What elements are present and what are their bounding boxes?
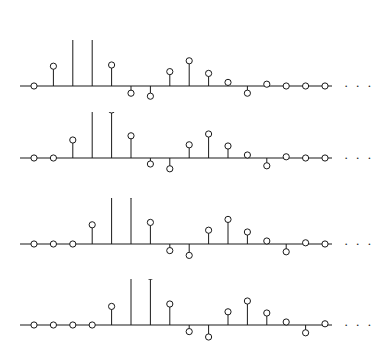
stem-marker [31, 241, 37, 247]
stem-marker [89, 222, 95, 228]
panel-4-canvas [0, 279, 375, 361]
stem-marker [50, 63, 56, 69]
stem-marker [322, 83, 328, 89]
panel-2 [0, 112, 375, 204]
stem-marker [283, 249, 289, 255]
stem-marker [283, 154, 289, 160]
stem-marker [109, 303, 115, 309]
stem-marker [283, 319, 289, 325]
stem-marker [186, 329, 192, 335]
stem-marker [50, 155, 56, 161]
stem-marker [50, 241, 56, 247]
stem-marker [147, 93, 153, 99]
continuation-ellipsis: · · · [344, 237, 374, 250]
stem-marker [303, 155, 309, 161]
stem-marker [303, 240, 309, 246]
continuation-ellipsis: · · · [344, 79, 374, 92]
stem-plot-figure: · · ·· · ·· · ·· · · [0, 0, 375, 361]
stem-marker [31, 155, 37, 161]
stem-series [31, 40, 328, 99]
stem-marker [109, 112, 115, 113]
stem-series [31, 112, 328, 172]
stem-series [31, 198, 328, 259]
stem-marker [109, 62, 115, 68]
stem-marker [244, 152, 250, 158]
continuation-ellipsis: · · · [344, 151, 374, 164]
stem-marker [264, 310, 270, 316]
continuation-ellipsis: · · · [344, 318, 374, 331]
panel-2-canvas [0, 112, 375, 204]
stem-marker [186, 252, 192, 258]
stem-marker [147, 161, 153, 167]
stem-marker [128, 90, 134, 96]
stem-marker [167, 166, 173, 172]
stem-marker [264, 163, 270, 169]
stem-marker [244, 90, 250, 96]
stem-marker [206, 227, 212, 233]
stem-marker [167, 301, 173, 307]
panel-3 [0, 198, 375, 290]
stem-marker [322, 155, 328, 161]
stem-marker [264, 238, 270, 244]
stem-marker [244, 229, 250, 235]
stem-marker [147, 219, 153, 225]
panel-3-canvas [0, 198, 375, 290]
stem-marker [283, 83, 289, 89]
panel-4 [0, 279, 375, 361]
stem-marker [167, 248, 173, 254]
stem-marker [70, 137, 76, 143]
stem-marker [186, 58, 192, 64]
stem-marker [70, 241, 76, 247]
stem-marker [244, 298, 250, 304]
stem-marker [50, 322, 56, 328]
stem-marker [225, 79, 231, 85]
stem-marker [303, 330, 309, 336]
stem-series [31, 279, 328, 340]
stem-marker [89, 322, 95, 328]
stem-marker [322, 241, 328, 247]
stem-marker [186, 142, 192, 148]
stem-marker [322, 321, 328, 327]
stem-marker [167, 69, 173, 75]
stem-marker [264, 81, 270, 87]
stem-marker [206, 70, 212, 76]
stem-marker [31, 322, 37, 328]
stem-marker [128, 133, 134, 139]
stem-marker [225, 309, 231, 315]
stem-marker [225, 216, 231, 222]
stem-marker [31, 83, 37, 89]
stem-marker [206, 131, 212, 137]
stem-marker [303, 83, 309, 89]
stem-marker [225, 143, 231, 149]
stem-marker [206, 334, 212, 340]
stem-marker [147, 279, 153, 280]
stem-marker [70, 322, 76, 328]
